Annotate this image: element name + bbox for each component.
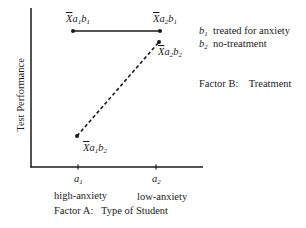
- x-tick-label-a1: a1: [74, 174, 83, 186]
- point-label-a2b2: Xa2b2: [158, 47, 182, 59]
- point-a2b1: [158, 29, 162, 33]
- x-category-a1: high-anxiety: [54, 191, 107, 202]
- point-a1b2: [75, 134, 79, 138]
- point-label-a1b2: Xa1b2: [83, 143, 107, 155]
- legend-item-b1: b1 treated for anxiety: [199, 26, 290, 38]
- point-a2b2: [157, 40, 161, 44]
- series-b2-line: [77, 42, 159, 136]
- x-tick-label-a2: a2: [152, 174, 161, 186]
- legend-title-factor-b: Factor B: Treatment: [199, 79, 291, 90]
- x-category-a2: low-anxiety: [137, 192, 187, 203]
- point-label-a2b1: Xa2b1: [153, 14, 177, 26]
- y-axis-label: Test Performance: [15, 58, 26, 132]
- x-axis-label: Factor A: Type of Student: [54, 206, 168, 217]
- point-label-a1b1: Xa1b1: [66, 14, 90, 26]
- legend-item-b2: b2 no-treatment: [199, 39, 267, 51]
- point-a1b1: [71, 29, 75, 33]
